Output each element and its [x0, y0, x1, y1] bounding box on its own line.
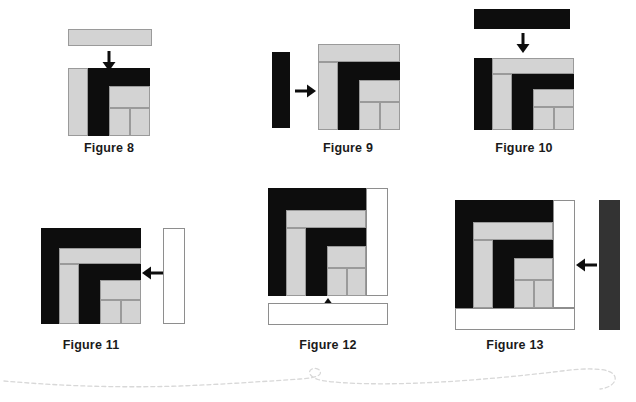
figure-12-incoming-white-bar	[268, 303, 388, 325]
black-L-horizontal	[327, 228, 366, 246]
outer-top-black-bar	[455, 200, 553, 222]
inner-gray-bar	[327, 246, 366, 268]
inner-small-left	[109, 108, 130, 136]
inner-small-left	[100, 300, 121, 324]
figure-13-caption: Figure 13	[455, 338, 575, 352]
outer-bottom-white-bar	[455, 308, 575, 330]
outer-right-white-column	[366, 188, 388, 296]
figure-10-down-arrow-icon	[514, 33, 532, 53]
figure-8-incoming-gray-bar	[68, 29, 152, 46]
left-gray-column	[68, 68, 88, 136]
figure-8-caption: Figure 8	[68, 141, 150, 155]
left-gray-column	[59, 264, 79, 324]
inner-small-right	[380, 102, 400, 130]
outer-left-black-column	[474, 58, 492, 130]
black-L-horizontal	[533, 74, 574, 89]
figure-11-incoming-white-bar	[163, 228, 185, 324]
top-gray-bar	[59, 248, 141, 264]
figure-11-left-arrow-icon	[142, 264, 163, 282]
inner-small-left	[359, 102, 380, 130]
outer-right-white-column	[553, 200, 575, 308]
outer-top-black-bar	[268, 188, 366, 210]
top-gray-bar	[492, 58, 574, 74]
figure-10-assembly	[474, 58, 574, 130]
black-L-horizontal	[100, 264, 141, 280]
black-L-vertical	[512, 74, 533, 130]
left-gray-column	[286, 228, 306, 296]
inner-gray-bar	[359, 80, 400, 102]
figure-12-caption: Figure 12	[268, 338, 388, 352]
black-L-vertical	[493, 240, 514, 308]
black-L-vertical	[88, 68, 109, 136]
black-L-horizontal	[359, 62, 400, 80]
inner-small-left	[533, 107, 554, 130]
outer-left-black-column	[455, 222, 473, 308]
left-gray-column	[318, 62, 338, 130]
figure-9-assembly	[318, 44, 400, 130]
inner-gray-bar	[100, 280, 141, 300]
inner-small-right	[130, 108, 150, 136]
inner-small-right	[347, 268, 366, 296]
black-L-horizontal	[514, 240, 553, 258]
figure-11-caption: Figure 11	[41, 338, 141, 352]
left-gray-column	[492, 74, 512, 130]
figure-13-incoming-dark-gray-bar	[599, 200, 620, 330]
top-gray-bar	[473, 222, 553, 240]
inner-small-right	[534, 280, 553, 308]
outer-top-black-bar	[41, 228, 141, 248]
figure-13-left-arrow-icon	[576, 256, 597, 274]
outer-left-black-column	[41, 248, 59, 324]
figure-9-right-arrow-icon	[295, 82, 316, 100]
figure-8-assembly	[68, 68, 150, 136]
figure-9-caption: Figure 9	[298, 141, 398, 155]
figure-13-assembly	[455, 200, 575, 330]
inner-small-right	[121, 300, 141, 324]
figure-11-assembly	[41, 228, 141, 324]
inner-small-left	[327, 268, 347, 296]
dashed-wave-divider	[0, 352, 636, 402]
inner-gray-bar	[109, 86, 150, 108]
top-gray-bar	[286, 210, 366, 228]
black-L-vertical	[79, 264, 100, 324]
figure-10-caption: Figure 10	[474, 141, 574, 155]
black-L-vertical	[306, 228, 327, 296]
top-gray-bar	[318, 44, 400, 62]
inner-gray-bar	[514, 258, 553, 280]
outer-left-black-column	[268, 210, 286, 296]
inner-small-left	[514, 280, 534, 308]
black-L-horizontal	[109, 68, 150, 86]
black-L-vertical	[338, 62, 359, 130]
figure-10-incoming-black-bar	[474, 9, 570, 29]
inner-gray-bar	[533, 89, 574, 107]
inner-small-right	[554, 107, 574, 130]
left-gray-column	[473, 240, 493, 308]
figure-12-assembly	[268, 188, 388, 296]
figure-9-incoming-black-bar	[272, 52, 290, 128]
